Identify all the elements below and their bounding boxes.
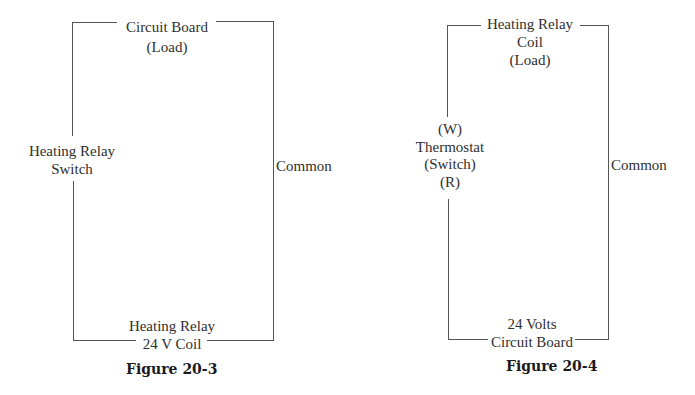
label-top-line3: (Load): [480, 51, 580, 69]
label-bottom-line2: Circuit Board: [482, 333, 582, 351]
wire-right: [608, 25, 609, 340]
wire-left-upper-segment: [447, 25, 448, 117]
caption-text: Figure 20-4: [506, 358, 597, 374]
label-left-line4: (R): [415, 174, 485, 192]
label-24-volts-circuit-board: 24 Volts Circuit Board: [482, 315, 582, 351]
wire-left-lower-segment: [448, 199, 449, 340]
wire-top-left-segment: [447, 25, 481, 26]
label-top-line2: Coil: [480, 33, 580, 51]
label-thermostat-switch: (W) Thermostat (Switch) (R): [415, 121, 485, 191]
wire-top-right-segment: [580, 25, 609, 26]
label-left-line1: (W): [415, 121, 485, 139]
figure-caption: Figure 20-4: [506, 358, 597, 374]
figure-20-4: Heating Relay Coil (Load) (W) Thermostat…: [0, 0, 695, 395]
label-common: Common: [611, 156, 667, 174]
label-bottom-line1: 24 Volts: [482, 315, 582, 333]
label-heating-relay-coil: Heating Relay Coil (Load): [480, 15, 580, 69]
label-left-line2: Thermostat: [415, 139, 485, 157]
label-common-text: Common: [611, 157, 667, 173]
label-left-line3: (Switch): [415, 156, 485, 174]
label-top-line1: Heating Relay: [480, 15, 580, 33]
